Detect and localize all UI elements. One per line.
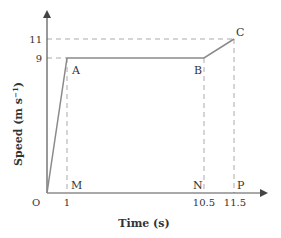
speed-line bbox=[47, 39, 234, 193]
x-tick-1: 1 bbox=[64, 197, 70, 208]
point-label-M: M bbox=[71, 179, 82, 192]
speed-time-chart: 11 9 O 1 10.5 11.5 A B C M N P Time (s) … bbox=[0, 0, 281, 238]
y-axis-title-end: ) bbox=[12, 82, 25, 87]
y-axis-title-sup: −1 bbox=[11, 87, 20, 98]
point-label-A: A bbox=[71, 64, 81, 77]
point-label-P: P bbox=[237, 179, 245, 192]
x-tick-11-5: 11.5 bbox=[224, 197, 246, 208]
y-axis-title: Speed (m s−1) bbox=[11, 82, 25, 166]
y-tick-9: 9 bbox=[36, 53, 42, 64]
point-label-N: N bbox=[193, 179, 203, 192]
guide-lines bbox=[47, 39, 234, 193]
y-axis-title-main: Speed (m s bbox=[12, 98, 25, 166]
origin-label: O bbox=[32, 197, 40, 208]
point-label-C: C bbox=[236, 26, 244, 39]
y-tick-11: 11 bbox=[29, 34, 42, 45]
point-label-B: B bbox=[194, 64, 202, 77]
x-tick-10-5: 10.5 bbox=[193, 197, 215, 208]
x-axis-title: Time (s) bbox=[118, 217, 169, 230]
